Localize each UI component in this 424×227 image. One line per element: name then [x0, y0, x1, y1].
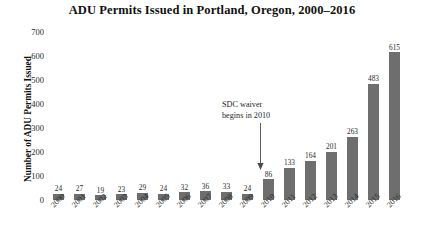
bar [368, 84, 379, 200]
bar-value-label: 201 [319, 143, 344, 150]
y-tick-label: 600 [18, 52, 44, 61]
bar-value-label: 133 [277, 159, 302, 166]
bar-group: 27 [69, 32, 90, 200]
annotation-sdc-waiver: SDC waiver begins in 2010 [222, 100, 270, 122]
bar-value-label: 164 [298, 152, 323, 159]
y-tick-label: 300 [18, 124, 44, 133]
bar-group: 36 [195, 32, 216, 200]
bar-group: 483 [363, 32, 384, 200]
bar [389, 52, 400, 200]
bar-group: 24 [153, 32, 174, 200]
y-tick-label: 700 [18, 28, 44, 37]
annotation-line-1: SDC waiver [222, 100, 270, 111]
bar-value-label: 615 [382, 44, 407, 51]
y-tick-label: 0 [18, 196, 44, 205]
bar-group: 32 [174, 32, 195, 200]
bar-group: 19 [90, 32, 111, 200]
bar-group: 615 [384, 32, 405, 200]
bar-group: 263 [342, 32, 363, 200]
bar-group: 23 [111, 32, 132, 200]
bar [347, 137, 358, 200]
y-tick-label: 500 [18, 76, 44, 85]
y-tick-label: 400 [18, 100, 44, 109]
y-tick-label: 100 [18, 172, 44, 181]
y-tick-label: 200 [18, 148, 44, 157]
bar-value-label: 86 [256, 171, 281, 178]
bar-group: 164 [300, 32, 321, 200]
bar-group: 201 [321, 32, 342, 200]
bar-group: 29 [132, 32, 153, 200]
annotation-line-2: begins in 2010 [222, 111, 270, 122]
bar-value-label: 483 [361, 75, 386, 82]
bar-chart: ADU Permits Issued in Portland, Oregon, … [0, 0, 424, 227]
bar-value-label: 263 [340, 128, 365, 135]
annotation-arrow-icon [256, 123, 265, 171]
bar-group: 24 [48, 32, 69, 200]
chart-title: ADU Permits Issued in Portland, Oregon, … [0, 3, 424, 18]
bar-group: 133 [279, 32, 300, 200]
